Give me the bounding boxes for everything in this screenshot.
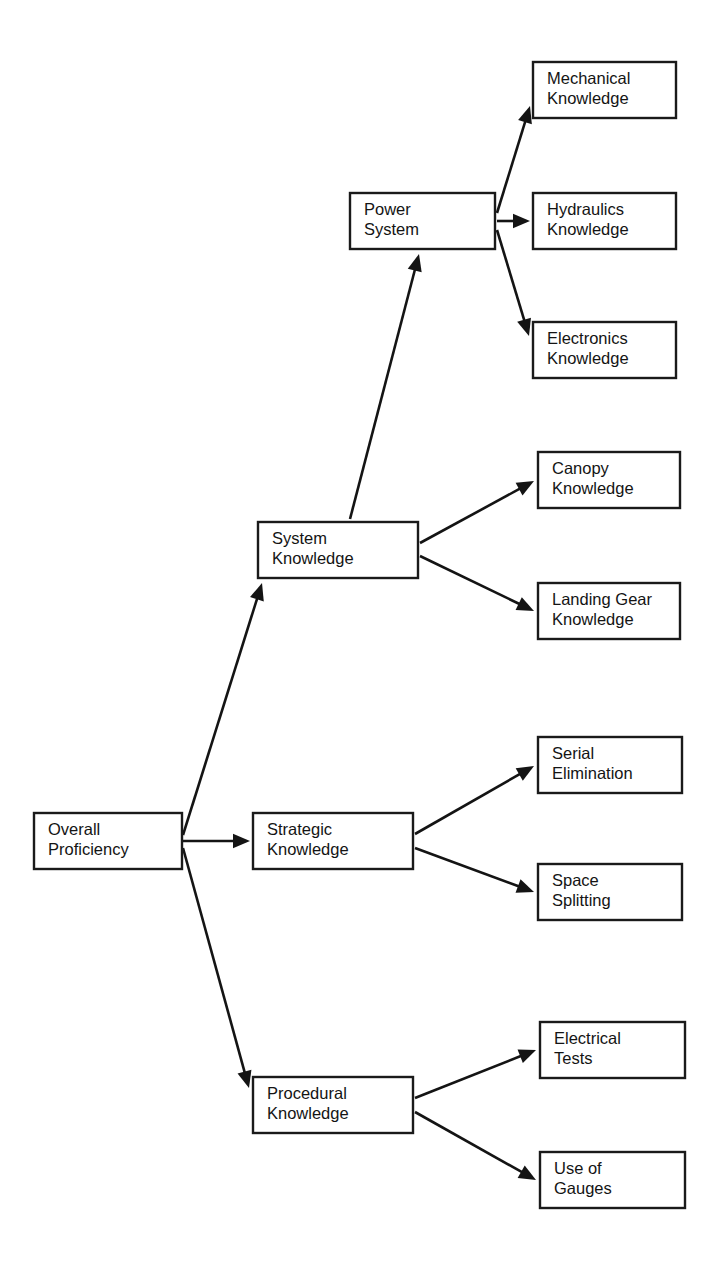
edge-system-to-landing-gear — [420, 556, 534, 611]
node-label-line: Electrical — [554, 1029, 621, 1047]
node-system-knowledge[interactable]: SystemKnowledge — [258, 522, 418, 578]
edge-strategic-to-serial — [415, 766, 534, 834]
node-label-line: Power — [364, 200, 411, 218]
node-label-line: Elimination — [552, 764, 633, 782]
node-label-line: Mechanical — [547, 69, 630, 87]
node-label-line: Knowledge — [267, 1104, 349, 1122]
edge-layer — [183, 106, 536, 1180]
node-canopy-knowledge[interactable]: CanopyKnowledge — [538, 452, 680, 508]
node-mechanical-knowledge[interactable]: MechanicalKnowledge — [533, 62, 676, 118]
node-space-splitting[interactable]: SpaceSplitting — [538, 864, 682, 920]
node-hydraulics-knowledge[interactable]: HydraulicsKnowledge — [533, 193, 676, 249]
node-procedural-knowledge[interactable]: ProceduralKnowledge — [253, 1077, 413, 1133]
node-layer: OverallProficiencySystemKnowledgeStrateg… — [34, 62, 685, 1208]
node-label-line: Strategic — [267, 820, 332, 838]
edge-power-to-electronics — [497, 230, 531, 336]
edge-procedural-to-gauges — [415, 1112, 536, 1180]
node-label-line: Space — [552, 871, 599, 889]
node-power-system[interactable]: PowerSystem — [350, 193, 495, 249]
edge-overall-to-procedural — [183, 848, 251, 1088]
node-label-line: Knowledge — [272, 549, 354, 567]
node-electrical-tests[interactable]: ElectricalTests — [540, 1022, 685, 1078]
node-label-line: Knowledge — [552, 479, 634, 497]
node-electronics-knowledge[interactable]: ElectronicsKnowledge — [533, 322, 676, 378]
node-label-line: Knowledge — [547, 349, 629, 367]
node-label-line: Knowledge — [547, 89, 629, 107]
node-label-line: Proficiency — [48, 840, 129, 858]
node-overall-proficiency[interactable]: OverallProficiency — [34, 813, 182, 869]
edge-system-to-power — [350, 254, 422, 519]
node-label-line: Gauges — [554, 1179, 612, 1197]
node-label-line: Procedural — [267, 1084, 347, 1102]
node-serial-elimination[interactable]: SerialElimination — [538, 737, 682, 793]
edge-overall-to-strategic — [183, 834, 250, 848]
node-landing-gear-knowledge[interactable]: Landing GearKnowledge — [538, 583, 680, 639]
node-use-of-gauges[interactable]: Use ofGauges — [540, 1152, 685, 1208]
edge-procedural-to-electrical — [415, 1050, 536, 1098]
node-label-line: Electronics — [547, 329, 628, 347]
node-label-line: Canopy — [552, 459, 610, 477]
node-label-line: Serial — [552, 744, 594, 762]
node-label-line: Knowledge — [547, 220, 629, 238]
node-label-line: Landing Gear — [552, 590, 652, 608]
node-label-line: Knowledge — [267, 840, 349, 858]
node-label-line: System — [364, 220, 419, 238]
node-label-line: Hydraulics — [547, 200, 624, 218]
node-label-line: Overall — [48, 820, 100, 838]
node-label-line: Tests — [554, 1049, 593, 1067]
node-label-line: Use of — [554, 1159, 602, 1177]
node-strategic-knowledge[interactable]: StrategicKnowledge — [253, 813, 413, 869]
node-label-line: Knowledge — [552, 610, 634, 628]
edge-overall-to-system — [183, 583, 264, 835]
node-label-line: Splitting — [552, 891, 611, 909]
edge-power-to-hydraulics — [497, 214, 530, 228]
knowledge-hierarchy-diagram: OverallProficiencySystemKnowledgeStrateg… — [0, 0, 723, 1261]
edge-system-to-canopy — [420, 481, 534, 543]
node-label-line: System — [272, 529, 327, 547]
edge-power-to-mechanical — [497, 106, 532, 213]
edge-strategic-to-space — [415, 848, 534, 893]
